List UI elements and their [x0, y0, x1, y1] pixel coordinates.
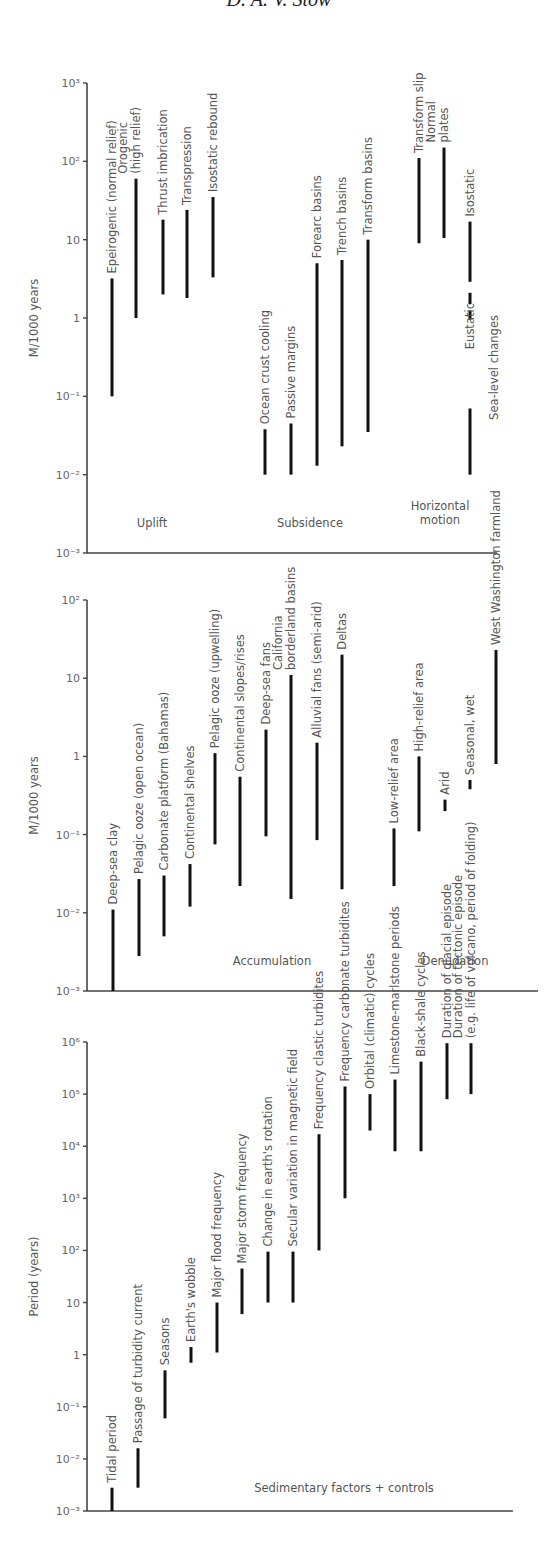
y-tick-label: 10⁻¹ [56, 829, 80, 842]
y-tick-label: 10² [62, 1244, 80, 1257]
range-bar: Earth's wobble [184, 1257, 198, 1363]
series-label: Earth's wobble [184, 1257, 198, 1342]
y-tick-label: 10⁻¹ [56, 1401, 80, 1414]
series-label: Arid [438, 772, 452, 795]
range-bar: Deltas [335, 613, 349, 889]
y-tick-label: 10⁻³ [56, 985, 80, 998]
range-bar: Frequency carbonate turbidites [338, 901, 352, 1198]
range-bar: Tidal period [105, 1415, 119, 1511]
series-label: Isostatic [463, 169, 477, 217]
y-tick-label: 1 [73, 1349, 80, 1362]
series-label: Frequency clastic turbidites [312, 971, 326, 1129]
range-bar: Alluvial fans (semi-arid) [310, 601, 324, 840]
series-label: Transpression [180, 126, 194, 206]
y-tick-label: 10³ [62, 77, 80, 90]
series-label: Secular variation in magnetic field [286, 1049, 300, 1247]
range-bar: Transpression [180, 126, 194, 298]
range-bar: Ocean crust cooling [258, 310, 272, 475]
series-label: borderland basins [284, 567, 298, 670]
series-label: California [271, 615, 285, 670]
group-label: Accumulation [233, 954, 311, 968]
y-tick-label: 10⁻³ [56, 547, 80, 560]
series-label: Seasonal, wet [463, 694, 477, 775]
range-bar: Pelagic ooze (open ocean) [132, 723, 146, 956]
y-tick-label: 10⁻³ [56, 1505, 80, 1518]
series-label: Deltas [335, 613, 349, 650]
series-label: Black-shale cycles [414, 951, 428, 1056]
series-label: Major storm frequency [235, 1133, 249, 1263]
series-label: Pelagic ooze (upwelling) [208, 609, 222, 748]
range-bar: Forearc basins [310, 175, 324, 466]
range-bar: Seasonal, wet [463, 694, 477, 789]
range-bar: Sea-level changes [487, 315, 501, 420]
series-label: (high relief) [129, 107, 143, 174]
series-label: Thrust imbrication [156, 109, 170, 216]
y-axis-label: Period (years) [27, 1236, 41, 1316]
range-bar: Carbonate platform (Bahamas) [157, 692, 171, 937]
y-tick-label: 10⁻² [56, 1453, 80, 1466]
range-bar: Limestone-marlstone periods [388, 906, 402, 1151]
range-bar: Frequency clastic turbidites [312, 971, 326, 1251]
y-tick-label: 1 [73, 312, 80, 325]
range-bar: Isostatic [463, 169, 477, 320]
range-bar: Trench basins [335, 177, 349, 447]
y-tick-label: 10 [66, 234, 80, 247]
range-bar: Major flood frequency [210, 1172, 224, 1353]
y-tick-label: 10⁶ [62, 1036, 81, 1049]
range-bar: Black-shale cycles [414, 951, 428, 1151]
series-label: High-relief area [412, 662, 426, 751]
range-bar: Low-relief area [387, 738, 401, 886]
series-label: Tidal period [105, 1415, 119, 1484]
y-tick-label: 10 [66, 672, 80, 685]
y-tick-label: 10² [62, 155, 80, 168]
range-bar: Continental shelves [183, 746, 197, 907]
series-label: Deep-sea clay [106, 823, 120, 905]
range-bar: Thrust imbrication [156, 109, 170, 294]
series-label: Trench basins [335, 177, 349, 256]
range-bar: Deep-sea clay [106, 823, 120, 991]
series-label: Orogenic [116, 122, 130, 174]
range-bar: Transform slip [412, 73, 426, 244]
range-bar: Passage of turbidity current [131, 1284, 145, 1488]
y-tick-label: 1 [73, 750, 80, 763]
group-label: Horizontal [411, 499, 470, 513]
range-bar: Secular variation in magnetic field [286, 1049, 300, 1303]
series-label: Passage of turbidity current [131, 1284, 145, 1444]
range-bar: Normalplates [424, 101, 451, 238]
y-axis-label: M/1000 years [27, 279, 41, 357]
y-tick-label: 10⁵ [62, 1088, 80, 1101]
group-label: Uplift [137, 516, 168, 530]
series-label: Continental slopes/rises [233, 634, 247, 772]
series-label: (e.g. life of volcano, period of folding… [464, 821, 478, 1038]
range-bar: Deep-sea fans [259, 642, 273, 836]
series-label: Frequency carbonate turbidites [338, 901, 352, 1081]
range-bar: Isostatic rebound [206, 93, 220, 278]
range-bar: West Washington farmland [489, 490, 503, 764]
series-label: Pelagic ooze (open ocean) [132, 723, 146, 874]
y-tick-label: 10⁴ [62, 1140, 81, 1153]
series-label: Normal [424, 101, 438, 143]
range-bar: High-relief area [412, 662, 426, 831]
range-bar: Change in earth's rotation [261, 1096, 275, 1302]
group-label: motion [420, 513, 460, 527]
range-bar: Orogenic(high relief) [116, 107, 143, 318]
chart-panel-3: 10⁶10⁵10⁴10³10²10110⁻¹10⁻²10⁻³Period (ye… [27, 821, 513, 1518]
chart-panel-1: 10³10²10110⁻¹10⁻²10⁻³M/1000 yearsUpliftS… [27, 73, 501, 560]
series-label: Ocean crust cooling [258, 310, 272, 424]
group-label: Sedimentary factors + controls [254, 1481, 434, 1495]
range-bar: Continental slopes/rises [233, 634, 247, 886]
range-bar: Pelagic ooze (upwelling) [208, 609, 222, 845]
series-label: Limestone-marlstone periods [388, 906, 402, 1074]
group-label: Subsidence [277, 516, 343, 530]
series-label: Isostatic rebound [206, 93, 220, 192]
series-label: West Washington farmland [489, 490, 503, 645]
series-label: Major flood frequency [210, 1172, 224, 1298]
range-bar: Arid [438, 772, 452, 812]
series-label: Passive margins [284, 326, 298, 419]
range-bar: Californiaborderland basins [271, 567, 298, 899]
series-label: Orbital (climatic) cycles [363, 953, 377, 1089]
series-label: Alluvial fans (semi-arid) [310, 601, 324, 737]
range-bar: Orbital (climatic) cycles [363, 953, 377, 1130]
series-label: Low-relief area [387, 738, 401, 823]
y-tick-label: 10⁻¹ [56, 390, 80, 403]
